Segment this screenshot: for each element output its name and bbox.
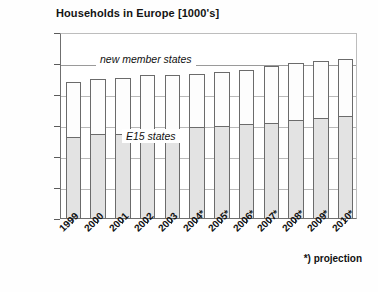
bar-segment-new-member-states: [140, 75, 155, 131]
bar-segment-new-member-states: [288, 63, 303, 121]
bar-segment-new-member-states: [115, 78, 130, 135]
bar-2005: [214, 32, 229, 218]
bar-segment-new-member-states: [165, 75, 180, 130]
bar-segment-new-member-states: [239, 70, 254, 125]
bar-segment-e15-states: [115, 134, 130, 219]
figure-caption: [0, 286, 378, 292]
bar-segment-e15-states: [313, 118, 328, 219]
bar-segment-new-member-states: [90, 79, 105, 136]
bar-segment-new-member-states: [264, 66, 279, 124]
bar-2009: [313, 32, 328, 218]
series-label-new-member-states: new member states: [96, 52, 196, 66]
bar-1999: [66, 32, 81, 218]
bar-segment-e15-states: [239, 124, 254, 219]
bar-segment-e15-states: [189, 127, 204, 219]
chart-figure: Households in Europe [1000's] 1000001200…: [0, 0, 378, 292]
bar-segment-new-member-states: [189, 74, 204, 128]
bar-segment-e15-states: [90, 134, 105, 219]
y-axis-tick-mark: [54, 219, 60, 220]
series-label-e15-states: E15 states: [122, 129, 180, 143]
bar-segment-new-member-states: [313, 61, 328, 119]
bar-2007: [264, 32, 279, 218]
bar-segment-e15-states: [66, 137, 81, 219]
bar-segment-e15-states: [264, 123, 279, 219]
bar-2010: [338, 32, 353, 218]
bar-2006: [239, 32, 254, 218]
chart-title: Households in Europe [1000's]: [56, 7, 219, 19]
bar-segment-e15-states: [288, 120, 303, 219]
bar-segment-new-member-states: [214, 72, 229, 126]
bar-segment-e15-states: [338, 116, 353, 219]
bar-segment-new-member-states: [66, 82, 81, 138]
bar-segment-e15-states: [140, 130, 155, 219]
bar-2008: [288, 32, 303, 218]
bar-segment-e15-states: [214, 126, 229, 219]
bar-segment-new-member-states: [338, 59, 353, 117]
projection-footnote: *) projection: [304, 253, 362, 264]
